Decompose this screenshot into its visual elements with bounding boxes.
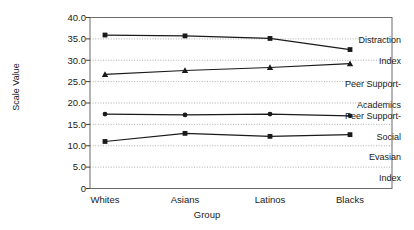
data-point bbox=[348, 47, 353, 52]
series-line-3 bbox=[105, 133, 350, 141]
series-label-evasian-index: Evasian Index bbox=[369, 141, 401, 194]
x-tick-label-whites: Whites bbox=[70, 194, 140, 205]
line-chart: Scale Value 40.0 35.0 30.0 25.0 20.0 15.… bbox=[0, 0, 414, 230]
x-tick-label-asians: Asians bbox=[150, 194, 220, 205]
x-tick-label-blacks: Blacks bbox=[315, 194, 385, 205]
data-point bbox=[183, 131, 188, 136]
data-point bbox=[268, 36, 273, 41]
series-label-line1: Peer Support- bbox=[345, 111, 401, 122]
series-label-line2: Index bbox=[369, 173, 401, 184]
data-point bbox=[103, 112, 108, 117]
series-label-line1: Peer Support- bbox=[345, 79, 401, 90]
data-point bbox=[183, 33, 188, 38]
data-point bbox=[103, 33, 108, 38]
data-point bbox=[183, 113, 188, 118]
series-line-0 bbox=[105, 35, 350, 50]
x-axis-title: Group bbox=[0, 209, 414, 220]
y-tick-marks bbox=[86, 18, 90, 189]
series-label-line1: Distraction bbox=[358, 35, 401, 46]
data-point bbox=[268, 112, 273, 117]
data-point bbox=[268, 134, 273, 139]
series-line-2 bbox=[105, 114, 350, 116]
series-label-line1: Evasian bbox=[369, 152, 401, 163]
x-tick-label-latinos: Latinos bbox=[235, 194, 305, 205]
series-label-line2: Index bbox=[358, 56, 401, 67]
series-layer bbox=[102, 33, 353, 144]
series-line-1 bbox=[105, 64, 350, 75]
data-point bbox=[103, 139, 108, 144]
